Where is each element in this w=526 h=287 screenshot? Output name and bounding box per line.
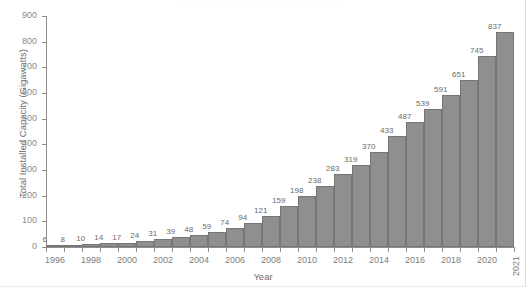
x-tick-label: 2006 <box>215 255 255 265</box>
x-tick-mark <box>478 248 479 252</box>
bar-value-label: 283 <box>323 164 343 173</box>
bar[interactable] <box>280 206 298 247</box>
x-tick-mark <box>190 248 191 252</box>
y-tick-label: 200 <box>0 190 37 200</box>
x-tick-label: 2018 <box>431 255 471 265</box>
bar-value-label: 433 <box>377 126 397 135</box>
bar[interactable] <box>316 186 334 247</box>
x-tick-mark <box>334 248 335 252</box>
plot-area: 6810141724313948597494121159198238283319… <box>46 16 514 247</box>
y-tick-label: 100 <box>0 215 37 225</box>
x-tick-label: 1998 <box>71 255 111 265</box>
y-tick-label: 0 <box>0 241 37 251</box>
x-tick-mark <box>298 248 299 252</box>
x-tick-mark <box>442 248 443 252</box>
bar[interactable] <box>100 243 118 247</box>
x-tick-label: 1996 <box>35 255 75 265</box>
bar-value-label: 6 <box>35 235 55 244</box>
bar-value-label: 745 <box>467 46 487 55</box>
y-tick-label: 700 <box>0 61 37 71</box>
x-tick-label: 2010 <box>287 255 327 265</box>
x-tick-label: 2012 <box>323 255 363 265</box>
bar-value-label: 651 <box>449 70 469 79</box>
bar[interactable] <box>496 32 514 247</box>
x-tick-mark <box>46 248 47 252</box>
bar-value-label: 837 <box>485 22 505 31</box>
x-tick-mark <box>424 248 425 252</box>
y-tick-label: 900 <box>0 10 37 20</box>
bar-value-label: 94 <box>233 213 253 222</box>
bar[interactable] <box>352 165 370 247</box>
chart-figure: Global Solar PV Total Installed Capacity… <box>0 0 526 287</box>
bar-value-label: 59 <box>197 222 217 231</box>
bar[interactable] <box>154 239 172 247</box>
bar[interactable] <box>460 80 478 247</box>
bar[interactable] <box>388 136 406 247</box>
bar[interactable] <box>190 235 208 247</box>
x-tick-mark <box>370 248 371 252</box>
x-tick-label: 2004 <box>179 255 219 265</box>
x-tick-mark <box>514 248 515 252</box>
x-tick-mark <box>172 248 173 252</box>
x-tick-mark <box>64 248 65 252</box>
bar-value-label: 487 <box>395 112 415 121</box>
y-tick-label: 300 <box>0 164 37 174</box>
y-tick-label: 400 <box>0 138 37 148</box>
x-tick-mark <box>136 248 137 252</box>
x-tick-mark <box>352 248 353 252</box>
x-tick-label: 2002 <box>143 255 183 265</box>
x-tick-mark <box>82 248 83 252</box>
bar[interactable] <box>118 243 136 247</box>
x-tick-mark <box>496 248 497 252</box>
y-tick-label: 800 <box>0 36 37 46</box>
bar-value-label: 8 <box>53 235 73 244</box>
bar[interactable] <box>226 228 244 247</box>
bar[interactable] <box>298 196 316 247</box>
bar-value-label: 319 <box>341 155 361 164</box>
x-tick-label: 2016 <box>395 255 435 265</box>
bar[interactable] <box>46 245 64 247</box>
x-tick-mark <box>262 248 263 252</box>
bar[interactable] <box>478 56 496 247</box>
x-tick-mark <box>316 248 317 252</box>
x-tick-label: 2008 <box>251 255 291 265</box>
bar[interactable] <box>172 237 190 247</box>
bar-value-label: 31 <box>143 229 163 238</box>
chart-title: Global Solar PV Total Installed Capacity <box>0 0 526 1</box>
bar[interactable] <box>64 245 82 247</box>
bar-value-label: 121 <box>251 206 271 215</box>
bar[interactable] <box>424 109 442 247</box>
x-axis-label: Year <box>0 271 526 282</box>
bar-value-label: 10 <box>71 234 91 243</box>
bar[interactable] <box>370 152 388 247</box>
bar-value-label: 39 <box>161 227 181 236</box>
bar[interactable] <box>208 232 226 247</box>
y-tick-label: 600 <box>0 87 37 97</box>
x-tick-mark <box>280 248 281 252</box>
bar[interactable] <box>82 244 100 247</box>
bar-value-label: 159 <box>269 196 289 205</box>
bar[interactable] <box>334 174 352 247</box>
bar-value-label: 74 <box>215 218 235 227</box>
bar-value-label: 24 <box>125 231 145 240</box>
bar[interactable] <box>262 216 280 247</box>
bar-value-label: 17 <box>107 233 127 242</box>
bar[interactable] <box>136 241 154 247</box>
x-tick-mark <box>460 248 461 252</box>
y-tick-label: 500 <box>0 113 37 123</box>
x-tick-label: 2020 <box>467 255 507 265</box>
x-tick-mark <box>154 248 155 252</box>
x-tick-mark <box>388 248 389 252</box>
bar-value-label: 14 <box>89 233 109 242</box>
bar[interactable] <box>442 95 460 247</box>
x-tick-label: 2014 <box>359 255 399 265</box>
bar-value-label: 238 <box>305 176 325 185</box>
bar-value-label: 539 <box>413 99 433 108</box>
bar[interactable] <box>244 223 262 247</box>
bar-value-label: 370 <box>359 142 379 151</box>
x-tick-mark <box>244 248 245 252</box>
x-tick-mark <box>208 248 209 252</box>
bar[interactable] <box>406 122 424 247</box>
x-tick-mark <box>406 248 407 252</box>
bar-value-label: 48 <box>179 225 199 234</box>
